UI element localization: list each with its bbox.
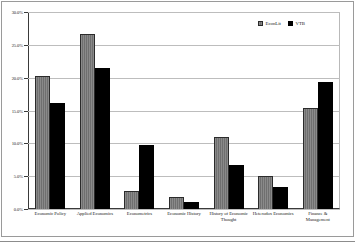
gridline: [28, 209, 340, 210]
y-axis-tick-label: 30.0%: [12, 10, 23, 15]
bar-econlit: [258, 176, 273, 209]
x-axis-label: History of Economic Thought: [206, 211, 251, 223]
x-axis-label: Economic History: [162, 211, 207, 223]
x-axis-label: Applied Economics: [73, 211, 118, 223]
legend-item-econlit: EconLit: [258, 21, 281, 26]
legend-label-vtb: VTB: [295, 21, 305, 26]
bar-vtb: [50, 103, 65, 209]
bar-group: [117, 12, 162, 209]
legend-swatch-icon-econlit: [258, 21, 263, 26]
bar-vtb: [229, 165, 244, 209]
y-axis-tick-label: 10.0%: [12, 141, 23, 146]
bar-vtb: [184, 202, 199, 209]
bar-econlit: [35, 76, 50, 209]
x-axis-labels: Economic PolicyApplied EconomicsEconomet…: [28, 211, 340, 223]
legend-label-econlit: EconLit: [266, 21, 281, 26]
bar-vtb: [318, 82, 333, 209]
bar-econlit: [303, 108, 318, 209]
plot-area: 0.0%5.0%10.0%15.0%20.0%25.0%30.0%: [28, 12, 340, 209]
bar-vtb: [273, 187, 288, 209]
bar-econlit: [169, 197, 184, 209]
bar-vtb: [95, 68, 110, 209]
page-divider: [0, 241, 355, 242]
y-axis-tick-label: 5.0%: [14, 174, 23, 179]
bar-group: [295, 12, 340, 209]
y-axis-tick: [24, 209, 28, 210]
bar-group: [206, 12, 251, 209]
x-axis-label: Heterodox Economics: [251, 211, 296, 223]
y-axis-tick-label: 15.0%: [12, 108, 23, 113]
chart-legend: EconLit VTB: [258, 21, 305, 26]
legend-item-vtb: VTB: [288, 21, 305, 26]
x-axis-label: Econometrics: [117, 211, 162, 223]
bar-group: [73, 12, 118, 209]
bar-econlit: [124, 191, 139, 209]
y-axis-tick-label: 25.0%: [12, 42, 23, 47]
bar-group: [28, 12, 73, 209]
bar-group: [251, 12, 296, 209]
legend-swatch-icon-vtb: [288, 21, 293, 26]
y-axis-tick-label: 0.0%: [14, 207, 23, 212]
y-axis-tick-label: 20.0%: [12, 75, 23, 80]
bar-econlit: [214, 137, 229, 209]
bar-groups: [28, 12, 340, 209]
bar-econlit: [80, 34, 95, 209]
bar-chart-figure: 0.0%5.0%10.0%15.0%20.0%25.0%30.0% Econom…: [0, 0, 355, 245]
x-axis-label: Finance & Management: [295, 211, 340, 223]
bar-group: [162, 12, 207, 209]
bar-vtb: [139, 145, 154, 209]
x-axis-label: Economic Policy: [28, 211, 73, 223]
